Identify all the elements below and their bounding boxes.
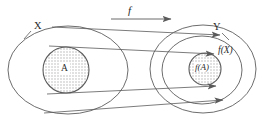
label-domain-set: X (34, 21, 42, 32)
label-function: f (128, 5, 131, 16)
label-subset: A (59, 63, 70, 75)
y-label-leader (222, 33, 229, 40)
label-image-set: f(X) (218, 46, 233, 56)
map-arrow-1 (52, 27, 220, 35)
map-arrow-4 (44, 100, 223, 113)
diagram-canvas (0, 0, 264, 125)
label-codomain-set: Y (213, 22, 221, 33)
set-mapping-diagram: f X Y f(X) A f(A) (0, 0, 264, 125)
label-subset-image: f(A) (194, 63, 210, 72)
